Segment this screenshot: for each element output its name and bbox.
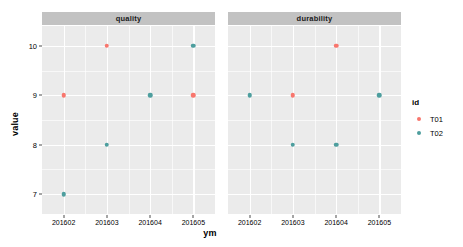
gridline-minor-vertical [358, 26, 359, 214]
legend-title: id [412, 98, 462, 107]
facet-panel: quality [42, 12, 215, 214]
x-axis-ticks: 201602201603201604201605 [228, 215, 401, 235]
facet-strip-label: durability [297, 14, 333, 23]
x-tick-label: 201604 [324, 219, 347, 226]
gridline-major-vertical [379, 26, 380, 214]
data-point [191, 44, 196, 49]
faceted-scatter-plot: value 78910 qualitydurability ym id T01T… [0, 0, 463, 247]
x-tick-mark [106, 215, 107, 218]
data-point [291, 142, 296, 147]
x-tick-mark [150, 215, 151, 218]
legend: id T01T02 [412, 98, 462, 140]
gridline-major-vertical [150, 26, 151, 214]
panel-plot-area [42, 26, 215, 214]
gridline-major-vertical [64, 26, 65, 214]
data-point [334, 142, 339, 147]
data-point [291, 93, 296, 98]
x-tick-mark [193, 215, 194, 218]
facet-strip: durability [228, 12, 401, 25]
data-point [148, 93, 153, 98]
x-tick-label: 201602 [238, 219, 261, 226]
legend-key-icon [412, 131, 425, 135]
gridline-major-vertical [107, 26, 108, 214]
gridline-minor-vertical [85, 26, 86, 214]
y-tick-label: 8 [33, 140, 37, 149]
y-tick-label: 9 [33, 91, 37, 100]
x-tick-mark [63, 215, 64, 218]
gridline-minor-vertical [172, 26, 173, 214]
facet-panel: durability [228, 12, 401, 214]
data-point [377, 93, 382, 98]
data-point [61, 192, 66, 197]
gridline-minor-vertical [315, 26, 316, 214]
gridline-major-vertical [336, 26, 337, 214]
data-point [105, 142, 110, 147]
x-tick-label: 201605 [368, 219, 391, 226]
x-tick-mark [336, 215, 337, 218]
x-tick-label: 201603 [281, 219, 304, 226]
data-point [191, 93, 196, 98]
data-point [334, 44, 339, 49]
gridline-minor-vertical [129, 26, 130, 214]
y-tick-label: 7 [33, 190, 37, 199]
x-tick-label: 201605 [182, 219, 205, 226]
legend-items: T01T02 [412, 112, 462, 140]
x-tick-mark [292, 215, 293, 218]
legend-item[interactable]: T02 [412, 126, 462, 140]
x-tick-label: 201604 [138, 219, 161, 226]
y-axis-ticks: 78910 [20, 0, 42, 247]
panel-plot-area [228, 26, 401, 214]
y-tick-label: 10 [29, 41, 37, 50]
legend-item-label: T02 [430, 129, 443, 138]
data-point [61, 93, 66, 98]
legend-item-label: T01 [430, 115, 443, 124]
x-axis-ticks: 201602201603201604201605 [42, 215, 215, 235]
data-point [247, 93, 252, 98]
x-tick-mark [249, 215, 250, 218]
facet-strip: quality [42, 12, 215, 25]
legend-key-icon [412, 117, 425, 121]
legend-item[interactable]: T01 [412, 112, 462, 126]
y-axis-title-label: value [10, 111, 20, 135]
data-point [105, 44, 110, 49]
x-tick-label: 201603 [95, 219, 118, 226]
facet-strip-label: quality [116, 14, 142, 23]
gridline-major-vertical [250, 26, 251, 214]
x-tick-label: 201602 [52, 219, 75, 226]
gridline-minor-vertical [271, 26, 272, 214]
gridline-major-vertical [293, 26, 294, 214]
gridline-major-vertical [193, 26, 194, 214]
x-tick-mark [379, 215, 380, 218]
